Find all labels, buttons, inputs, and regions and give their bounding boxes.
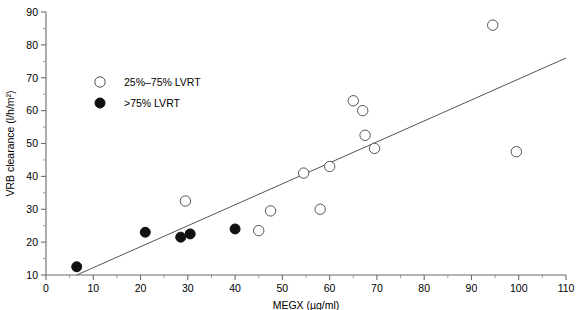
x-tick-label: 100 [510,282,528,294]
y-tick-label: 30 [26,203,38,215]
chart-canvas: 0102030405060708090100110102030405060708… [0,0,578,310]
x-tick-label: 110 [558,282,575,294]
y-axis-title: VRB clearance (l/h/m²) [4,90,16,196]
x-tick-label: 60 [324,282,336,294]
data-point-series-0 [360,130,370,140]
x-tick-label: 70 [371,282,383,294]
data-point-series-0 [488,20,498,30]
data-point-series-0 [265,206,275,216]
data-point-series-0 [348,96,358,106]
legend-marker-0 [95,77,105,87]
x-axis-title: MEGX (µg/ml) [273,299,340,310]
data-point-series-0 [180,196,190,206]
scatter-plot-figure: 0102030405060708090100110102030405060708… [0,0,578,310]
x-tick-label: 50 [277,282,289,294]
y-tick-label: 60 [26,104,38,116]
x-tick-label: 40 [229,282,241,294]
y-tick-label: 80 [26,39,38,51]
x-tick-label: 10 [87,282,99,294]
y-tick-label: 40 [26,170,38,182]
y-tick-label: 10 [26,269,38,281]
data-point-series-1 [230,224,240,234]
y-tick-label: 50 [26,137,38,149]
x-tick-label: 0 [43,282,49,294]
data-point-series-1 [185,229,195,239]
data-point-series-0 [254,225,264,235]
data-point-series-0 [315,204,325,214]
data-point-series-0 [298,168,308,178]
x-tick-label: 80 [418,282,430,294]
data-point-series-1 [176,232,186,242]
x-tick-label: 90 [466,282,478,294]
legend-marker-1 [95,98,105,108]
y-tick-label: 90 [26,6,38,18]
x-tick-label: 20 [135,282,147,294]
regression-line [77,58,566,275]
x-tick-label: 30 [182,282,194,294]
y-tick-label: 20 [26,236,38,248]
legend-label-0: 25%–75% LVRT [124,76,201,88]
data-point-series-0 [358,105,368,115]
data-point-series-1 [140,227,150,237]
data-point-series-1 [72,262,82,272]
data-point-series-0 [511,147,521,157]
data-point-series-0 [369,143,379,153]
y-tick-label: 70 [26,72,38,84]
data-point-series-0 [324,161,334,171]
legend-label-1: >75% LVRT [124,97,181,109]
